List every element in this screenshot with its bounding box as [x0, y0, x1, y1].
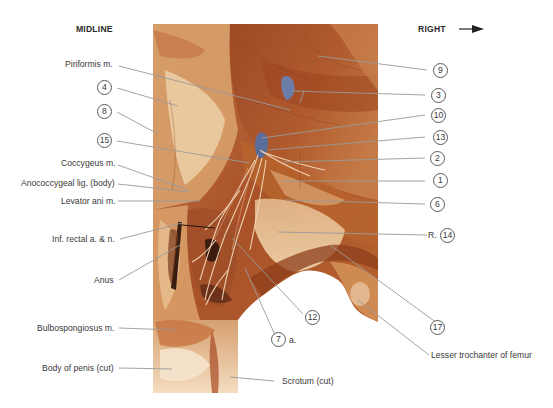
label-inf-rectal: Inf. rectal a. & n. [52, 234, 115, 244]
callout-8: 8 [97, 104, 112, 119]
callout-10: 10 [431, 108, 446, 123]
callout-3: 3 [431, 88, 446, 103]
callout-4: 4 [97, 80, 112, 95]
label-bulbospongiosus: Bulbospongiosus m. [37, 323, 114, 333]
callout-7-suffix: a. [289, 335, 296, 345]
midline-heading: MIDLINE [76, 24, 113, 34]
callout-6: 6 [430, 197, 445, 212]
anatomy-figure: MIDLINE RIGHT Piriformis m. 4 8 15 Coccy… [0, 0, 553, 408]
callout-7: 7 [271, 332, 286, 347]
callout-12: 12 [305, 310, 320, 325]
callout-2: 2 [430, 151, 445, 166]
label-anococcygeal: Anococcygeal lig. (body) [21, 178, 115, 188]
callout-13: 13 [433, 130, 448, 145]
callout-14-prefix: R. [428, 230, 437, 240]
callout-14: 14 [440, 228, 455, 243]
label-lesser-trochanter: Lesser trochanter of femur [431, 350, 532, 360]
label-anus: Anus [94, 275, 114, 285]
callout-17: 17 [430, 320, 445, 335]
arrow-right-icon [459, 25, 484, 33]
callout-15: 15 [97, 133, 112, 148]
callout-1: 1 [433, 173, 448, 188]
label-scrotum: Scrotum (cut) [282, 376, 334, 386]
callout-9: 9 [433, 63, 448, 78]
label-levator-ani: Levator ani m. [61, 196, 115, 206]
label-piriformis: Piriformis m. [65, 59, 113, 69]
right-heading: RIGHT [418, 24, 446, 34]
label-coccygeus: Coccygeus m. [61, 158, 115, 168]
label-body-of-penis: Body of penis (cut) [42, 363, 114, 373]
